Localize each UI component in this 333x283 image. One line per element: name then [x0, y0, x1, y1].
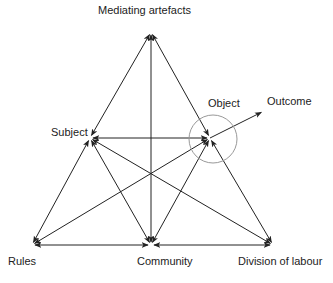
label-object: Object	[208, 97, 240, 109]
label-mediating-artefacts: Mediating artefacts	[98, 4, 191, 16]
activity-system-diagram	[0, 0, 333, 283]
label-outcome: Outcome	[267, 95, 312, 107]
edge-object-to-outcome	[210, 112, 261, 138]
label-subject: Subject	[51, 126, 88, 138]
edge-mediating-artefacts-to-object	[152, 35, 208, 136]
label-community: Community	[137, 255, 193, 267]
label-rules: Rules	[8, 255, 36, 267]
object-circle	[189, 115, 237, 163]
label-division-of-labour: Division of labour	[238, 255, 322, 267]
edge-mediating-artefacts-to-subject	[91, 35, 149, 136]
edges-group	[33, 35, 271, 245]
